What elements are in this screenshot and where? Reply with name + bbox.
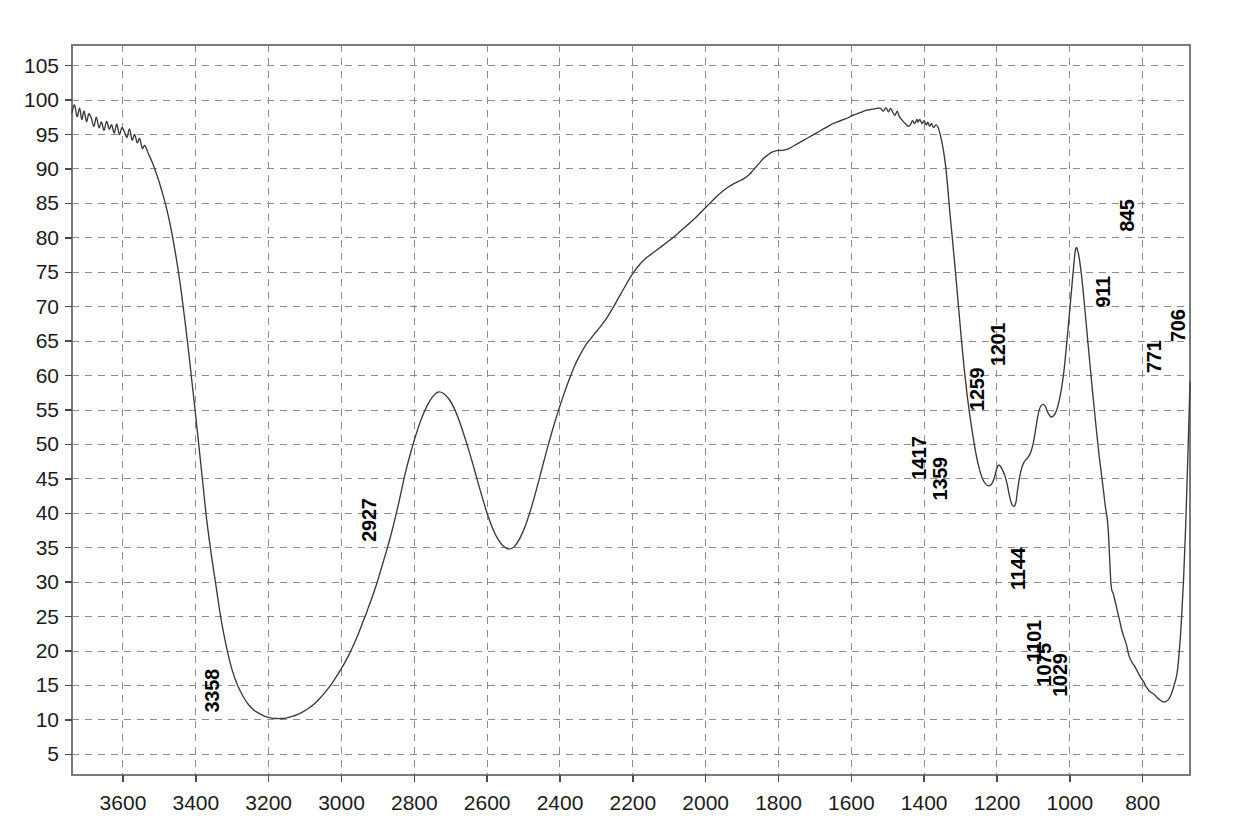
y-axis-tick-label: 15 [36, 673, 59, 696]
y-axis-tick-label: 50 [36, 432, 59, 455]
peak-label: 2927 [358, 498, 380, 541]
y-axis-tick-label: 60 [36, 364, 59, 387]
y-axis-tick-label: 75 [36, 260, 59, 283]
x-axis-tick-label: 3400 [172, 791, 219, 814]
peak-label: 771 [1143, 340, 1165, 373]
y-axis-tick-label: 65 [36, 329, 59, 352]
y-axis-tick-label: 10 [36, 708, 59, 731]
y-axis-tick-labels: 1051009590858075706560555045403530252015… [24, 54, 59, 766]
y-axis-tick-label: 40 [36, 501, 59, 524]
x-axis-tick-label: 1800 [755, 791, 802, 814]
y-axis-tick-label: 70 [36, 295, 59, 318]
peak-label: 1201 [987, 323, 1009, 366]
peak-label: 1417 [908, 436, 930, 479]
y-axis-tick-label: 90 [36, 157, 59, 180]
x-axis-tick-labels: 3600340032003000280026002400220020001800… [100, 791, 1161, 814]
y-axis-tick-label: 25 [36, 605, 59, 628]
x-axis-tick-label: 1200 [974, 791, 1021, 814]
y-axis-tick-label: 20 [36, 639, 59, 662]
peak-label: 706 [1167, 309, 1189, 342]
peak-label: 845 [1116, 199, 1138, 232]
y-axis-tick-label: 45 [36, 467, 59, 490]
peak-label: 1259 [966, 367, 988, 410]
y-axis-tick-label: 100 [24, 88, 59, 111]
y-axis-tick-label: 80 [36, 226, 59, 249]
peak-label: 1029 [1049, 653, 1071, 696]
ir-spectrum-figure: 1051009590858075706560555045403530252015… [0, 0, 1233, 839]
x-axis-tick-label: 800 [1125, 791, 1160, 814]
x-axis-tick-label: 1600 [828, 791, 875, 814]
x-axis-tick-label: 2800 [391, 791, 438, 814]
y-axis-tick-label: 95 [36, 123, 59, 146]
peak-label: 1144 [1007, 547, 1029, 590]
peak-labels: 3358292714171359125912011144110110751029… [201, 199, 1189, 712]
x-axis-tick-label: 3600 [100, 791, 147, 814]
y-axis-tick-label: 5 [47, 742, 59, 765]
x-axis-tick-label: 2600 [464, 791, 511, 814]
y-axis-tick-label: 35 [36, 536, 59, 559]
peak-label: 3358 [201, 669, 223, 712]
y-axis-tick-label: 55 [36, 398, 59, 421]
y-axis-tick-label: 85 [36, 191, 59, 214]
spectrum-plot: 1051009590858075706560555045403530252015… [0, 0, 1233, 839]
peak-label: 911 [1092, 276, 1114, 308]
x-axis-tick-label: 3000 [318, 791, 365, 814]
y-axis-tick-label: 30 [36, 570, 59, 593]
peak-label: 1359 [929, 457, 951, 500]
grid-lines [72, 45, 1190, 775]
x-axis-tick-label: 1400 [901, 791, 948, 814]
y-axis-tick-label: 105 [24, 54, 59, 77]
x-axis-tick-label: 2000 [682, 791, 729, 814]
x-axis-tick-label: 2200 [609, 791, 656, 814]
x-axis-tick-label: 2400 [537, 791, 584, 814]
x-axis-tick-label: 3200 [245, 791, 292, 814]
x-axis-tick-label: 1000 [1046, 791, 1093, 814]
tick-marks [65, 66, 1143, 782]
